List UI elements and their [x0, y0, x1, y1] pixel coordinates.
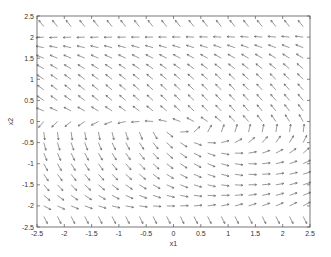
- field-arrow: [201, 117, 208, 121]
- field-arrow: [187, 54, 194, 58]
- field-arrow: [112, 143, 115, 150]
- field-arrow: [208, 153, 216, 156]
- x-tick-label: -1.5: [86, 230, 98, 237]
- field-arrow: [298, 20, 303, 26]
- field-arrow: [249, 216, 253, 223]
- field-arrow: [290, 202, 297, 205]
- field-arrow: [270, 64, 276, 69]
- field-arrow: [303, 192, 310, 195]
- x-tick-label: 2: [281, 230, 285, 237]
- field-arrow: [235, 124, 238, 132]
- field-arrow: [303, 160, 310, 163]
- field-arrow: [257, 94, 262, 100]
- field-arrow: [98, 185, 104, 190]
- field-arrow: [180, 164, 187, 168]
- field-arrow: [44, 195, 50, 200]
- field-arrow: [57, 195, 63, 200]
- field-arrow: [194, 185, 202, 188]
- field-arrow: [180, 195, 188, 197]
- field-arrow: [228, 54, 235, 58]
- field-arrow: [221, 164, 229, 167]
- field-arrow: [296, 45, 303, 48]
- field-arrow: [268, 36, 276, 38]
- field-arrow: [221, 185, 229, 187]
- field-arrow: [132, 45, 140, 47]
- x-tick-label: 0.5: [196, 230, 206, 237]
- field-arrow: [106, 95, 112, 100]
- field-arrow: [243, 84, 249, 90]
- field-arrow: [241, 36, 249, 38]
- field-arrow: [262, 162, 270, 164]
- field-arrow: [119, 74, 125, 79]
- field-arrow: [126, 164, 131, 170]
- field-arrow: [65, 122, 71, 127]
- field-arrow: [215, 74, 221, 79]
- field-arrow: [44, 206, 51, 210]
- field-arrow: [216, 20, 221, 26]
- field-arrow: [145, 36, 153, 38]
- field-arrow: [153, 143, 158, 149]
- field-arrow: [173, 54, 180, 58]
- field-arrow: [91, 45, 99, 47]
- field-arrow: [139, 206, 147, 208]
- field-arrow: [230, 20, 235, 26]
- field-arrow: [57, 143, 60, 151]
- field-arrow: [202, 74, 208, 79]
- field-arrow: [283, 54, 290, 58]
- field-arrow: [202, 95, 208, 101]
- field-arrow: [243, 105, 248, 111]
- field-arrow: [215, 64, 221, 69]
- field-arrow: [276, 203, 283, 206]
- field-arrow: [235, 139, 242, 143]
- field-arrow: [229, 64, 235, 69]
- field-arrow: [78, 96, 84, 101]
- field-arrow: [161, 106, 167, 111]
- field-arrow: [44, 174, 48, 181]
- field-arrow: [221, 140, 229, 142]
- field-arrow: [276, 149, 283, 153]
- field-arrow: [201, 64, 207, 69]
- field-arrow: [162, 20, 167, 26]
- field-arrow: [92, 95, 98, 100]
- field-arrow: [282, 36, 290, 38]
- field-arrow: [57, 216, 61, 223]
- field-arrow: [221, 125, 224, 132]
- field-arrow: [85, 153, 89, 160]
- field-arrow: [262, 216, 266, 223]
- field-arrow: [126, 206, 134, 208]
- field-arrow: [132, 55, 139, 59]
- field-arrow: [167, 143, 173, 148]
- field-arrow: [71, 174, 76, 180]
- field-arrow: [180, 205, 188, 207]
- field-arrow: [126, 132, 129, 140]
- field-arrow: [262, 124, 264, 132]
- field-arrow: [255, 54, 262, 58]
- field-arrow: [118, 36, 126, 38]
- field-arrow: [298, 74, 304, 80]
- y-tick-label: 1: [30, 76, 34, 83]
- field-arrow: [112, 206, 120, 208]
- field-arrow: [285, 105, 290, 111]
- field-arrow: [39, 20, 44, 26]
- field-arrow: [175, 95, 181, 101]
- plot-frame: [37, 16, 310, 227]
- x-axis-label: x1: [170, 240, 178, 247]
- field-arrow: [37, 65, 44, 69]
- field-arrow: [98, 164, 103, 171]
- field-arrow: [147, 74, 153, 79]
- field-arrow: [167, 195, 175, 197]
- y-tick-label: -2.5: [22, 224, 34, 231]
- field-arrow: [107, 20, 112, 26]
- field-arrow: [276, 161, 284, 163]
- field-arrow: [71, 153, 74, 160]
- field-arrow: [284, 84, 289, 90]
- field-arrow: [194, 216, 198, 223]
- field-arrow: [145, 120, 153, 122]
- field-arrow: [39, 122, 44, 128]
- field-arrow: [173, 45, 181, 48]
- field-arrow: [133, 64, 140, 68]
- field-arrow: [188, 84, 194, 90]
- field-arrow: [174, 84, 180, 89]
- field-arrow: [121, 20, 126, 26]
- field-arrow: [105, 55, 112, 58]
